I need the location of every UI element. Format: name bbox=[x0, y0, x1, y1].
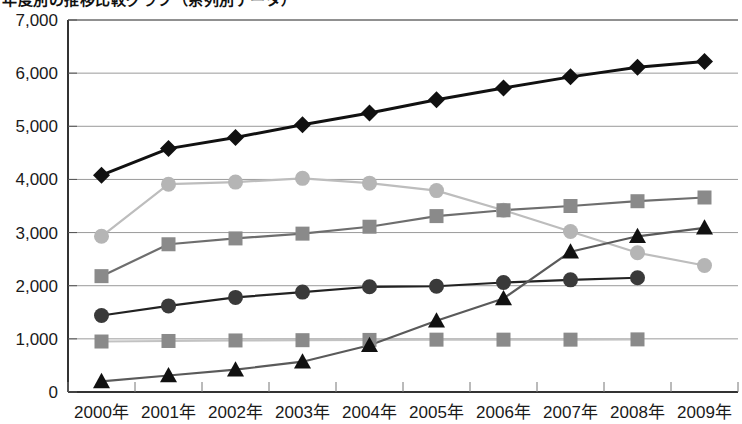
marker-triangle bbox=[696, 219, 713, 234]
marker-diamond bbox=[696, 53, 713, 70]
marker-diamond bbox=[294, 116, 311, 133]
marker-square bbox=[296, 333, 310, 347]
y-axis-tick-label: 1,000 bbox=[15, 330, 58, 349]
marker-square bbox=[631, 194, 645, 208]
y-axis-tick-label: 6,000 bbox=[15, 64, 58, 83]
marker-square bbox=[698, 190, 712, 204]
marker-diamond bbox=[495, 80, 512, 97]
series-lines bbox=[102, 61, 705, 381]
marker-circle bbox=[295, 285, 310, 300]
marker-circle bbox=[228, 290, 243, 305]
series-line-series-3-gray-square bbox=[102, 197, 705, 276]
marker-diamond bbox=[227, 129, 244, 146]
marker-square bbox=[430, 209, 444, 223]
marker-circle bbox=[630, 270, 645, 285]
marker-circle bbox=[94, 229, 109, 244]
marker-square bbox=[95, 269, 109, 283]
marker-diamond bbox=[93, 167, 110, 184]
y-axis-tick-label: 0 bbox=[49, 383, 58, 402]
marker-circle bbox=[563, 272, 578, 287]
marker-circle bbox=[697, 258, 712, 273]
x-axis-tick-label: 2003年 bbox=[275, 403, 330, 422]
marker-square bbox=[162, 334, 176, 348]
y-axis-tick-label: 2,000 bbox=[15, 277, 58, 296]
marker-circle bbox=[429, 279, 444, 294]
marker-circle bbox=[161, 298, 176, 313]
marker-square bbox=[564, 199, 578, 213]
y-axis-tick-label: 7,000 bbox=[15, 11, 58, 30]
series-line-series-1-diamond bbox=[102, 61, 705, 175]
marker-circle bbox=[295, 171, 310, 186]
marker-circle bbox=[630, 245, 645, 260]
x-axis-tick-label: 2006年 bbox=[476, 403, 531, 422]
marker-circle bbox=[94, 308, 109, 323]
marker-circle bbox=[161, 177, 176, 192]
x-axis-labels: 2000年2001年2002年2003年2004年2005年2006年2007年… bbox=[74, 403, 732, 422]
x-axis-tick-label: 2004年 bbox=[342, 403, 397, 422]
marker-circle bbox=[563, 224, 578, 239]
marker-diamond bbox=[428, 91, 445, 108]
marker-circle bbox=[228, 175, 243, 190]
x-axis-tick-label: 2001年 bbox=[141, 403, 196, 422]
marker-square bbox=[497, 333, 511, 347]
marker-square bbox=[296, 227, 310, 241]
marker-square bbox=[564, 333, 578, 347]
marker-square bbox=[363, 220, 377, 234]
marker-circle bbox=[362, 176, 377, 191]
x-axis-tick-label: 2002年 bbox=[208, 403, 263, 422]
marker-square bbox=[497, 203, 511, 217]
marker-square bbox=[229, 333, 243, 347]
marker-square bbox=[95, 335, 109, 349]
marker-square bbox=[162, 237, 176, 251]
x-axis-tick-label: 2007年 bbox=[543, 403, 598, 422]
marker-square bbox=[631, 332, 645, 346]
marker-square bbox=[229, 231, 243, 245]
marker-circle bbox=[362, 279, 377, 294]
marker-circle bbox=[496, 275, 511, 290]
marker-diamond bbox=[160, 140, 177, 157]
x-axis-tick-label: 2000年 bbox=[74, 403, 129, 422]
line-chart: 01,0002,0003,0004,0005,0006,0007,000 200… bbox=[0, 0, 742, 424]
y-axis-tick-label: 5,000 bbox=[15, 117, 58, 136]
chart-canvas: 01,0002,0003,0004,0005,0006,0007,000 200… bbox=[0, 0, 742, 424]
chart-screenshot: 年度別の推移比較グラフ（系列別データ） 01,0002,0003,0004,00… bbox=[0, 0, 742, 424]
series-line-series-6-triangle bbox=[102, 228, 705, 382]
x-axis-tick-label: 2005年 bbox=[409, 403, 464, 422]
marker-circle bbox=[429, 183, 444, 198]
y-axis-tick-label: 3,000 bbox=[15, 224, 58, 243]
y-axis-labels: 01,0002,0003,0004,0005,0006,0007,000 bbox=[15, 11, 58, 402]
y-axis-tick-label: 4,000 bbox=[15, 170, 58, 189]
marker-triangle bbox=[495, 290, 512, 305]
marker-square bbox=[430, 333, 444, 347]
marker-diamond bbox=[361, 105, 378, 122]
x-axis-tick-label: 2009年 bbox=[677, 403, 732, 422]
x-axis-tick-label: 2008年 bbox=[610, 403, 665, 422]
marker-diamond bbox=[562, 68, 579, 85]
